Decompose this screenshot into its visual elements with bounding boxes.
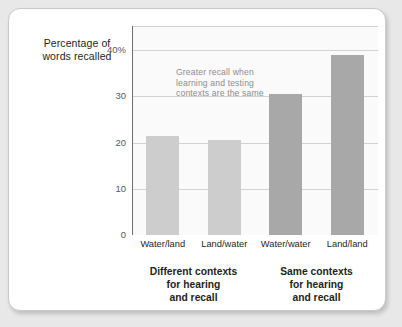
group-label-same-line-1: Same contexts — [255, 265, 378, 278]
group-label-same-line-3: and recall — [255, 291, 378, 304]
annotation-line-1: Greater recall when — [176, 67, 264, 78]
bar-land-land — [331, 55, 364, 235]
group-label-different-line-3: and recall — [132, 291, 255, 304]
x-tick-label-land-land: Land/land — [317, 239, 379, 249]
bar-water-land — [146, 136, 179, 235]
group-label-different-line-1: Different contexts — [132, 265, 255, 278]
group-labels: Different contexts for hearing and recal… — [132, 265, 378, 311]
x-tick-label-land-water: Land/water — [194, 239, 256, 249]
bar-land-water — [208, 140, 241, 235]
y-axis-line — [132, 26, 133, 235]
gridline-40 — [132, 50, 378, 51]
y-tick-label-30: 30 — [80, 90, 126, 101]
figure-card: Percentage of words recalled Greater rec… — [8, 8, 386, 311]
y-tick-label-10: 10 — [80, 182, 126, 193]
y-axis-ticks: 010203040% — [80, 26, 126, 234]
y-tick-label-20: 20 — [80, 136, 126, 147]
annotation-line-3: contexts are the same — [176, 88, 264, 99]
group-label-different-line-2: for hearing — [132, 278, 255, 291]
group-label-same-contexts: Same contexts for hearing and recall — [255, 265, 378, 305]
bar-water-water — [269, 94, 302, 235]
annotation-greater-recall: Greater recall when learning and testing… — [176, 67, 264, 99]
x-axis-category-labels: Water/landLand/waterWater/waterLand/land — [132, 239, 378, 255]
annotation-line-2: learning and testing — [176, 78, 264, 89]
x-tick-label-water-land: Water/land — [132, 239, 194, 249]
x-tick-label-water-water: Water/water — [255, 239, 317, 249]
y-tick-label-0: 0 — [80, 229, 126, 240]
group-label-same-line-2: for hearing — [255, 278, 378, 291]
plot-area: Greater recall when learning and testing… — [132, 26, 378, 235]
y-tick-label-40: 40% — [80, 44, 126, 55]
group-label-different-contexts: Different contexts for hearing and recal… — [132, 265, 255, 305]
